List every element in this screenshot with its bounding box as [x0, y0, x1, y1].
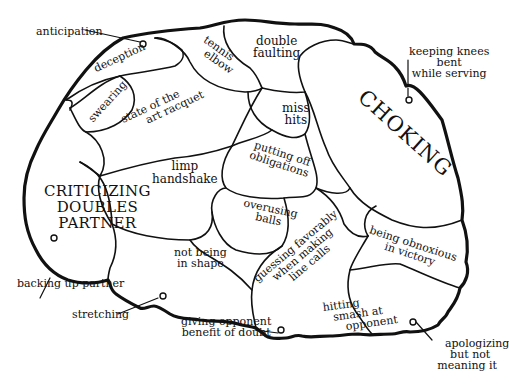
callout-apologizing: apologizing but not meaning it — [425, 338, 509, 371]
region-label-miss-hits: miss hits — [282, 102, 310, 126]
region-label-criticizing-doubles-partner: CRITICIZING DOUBLES PARTNER — [44, 183, 151, 231]
region-label-not-being-in-shape: not being in shape — [174, 247, 227, 269]
callout-stretching: stretching — [72, 309, 129, 320]
region-label-limp-handshake: limp handshake — [152, 160, 218, 186]
callout-keeping-knees-bent: keeping knees bent while serving — [409, 46, 489, 79]
callout-giving-opponent-benefit: giving opponent benefit of doubt — [181, 316, 271, 338]
brain-outer-outline — [24, 20, 468, 339]
region-label-double-faulting: double faulting — [253, 35, 300, 59]
callout-anticipation: anticipation — [36, 26, 103, 37]
callout-backing-up-partner: backing up partner — [17, 278, 124, 289]
